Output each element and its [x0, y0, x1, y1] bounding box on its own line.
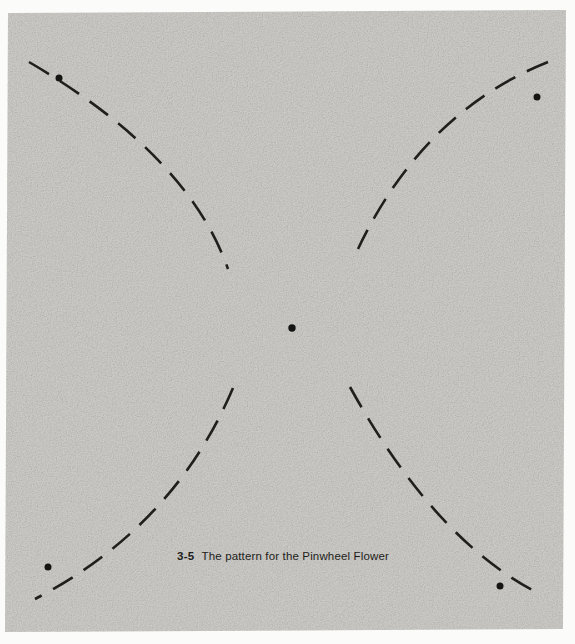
figure-caption-text: The pattern for the Pinwheel Flower — [202, 550, 389, 562]
pinwheel-pattern-figure — [0, 0, 575, 644]
top-right-dot — [534, 94, 541, 101]
book-page: 3-5The pattern for the Pinwheel Flower — [0, 0, 575, 644]
top-left-dot — [56, 75, 63, 82]
center-dot — [288, 324, 295, 331]
paper-grain-texture — [5, 10, 566, 632]
figure-number: 3-5 — [177, 550, 195, 562]
figure-caption: 3-5The pattern for the Pinwheel Flower — [177, 549, 437, 564]
bottom-left-dot — [45, 564, 52, 571]
bottom-right-dot — [497, 583, 504, 590]
